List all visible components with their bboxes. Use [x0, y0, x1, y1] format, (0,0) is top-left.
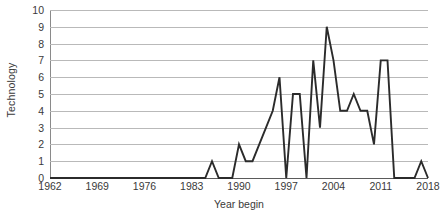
y-tick-label-6: 6: [38, 71, 44, 83]
y-tick-label-1: 1: [38, 155, 44, 167]
y-tick-label-10: 10: [32, 4, 44, 16]
y-tick-label-7: 7: [38, 54, 44, 66]
series-polyline: [50, 27, 428, 178]
y-tick-label-4: 4: [38, 105, 44, 117]
y-tick-label-5: 5: [38, 88, 44, 100]
y-tick-label-3: 3: [38, 122, 44, 134]
y-tick-label-8: 8: [38, 38, 44, 50]
x-tick-label-1976: 1976: [133, 180, 156, 192]
y-tick-label-2: 2: [38, 138, 44, 150]
series-line-technology: [50, 10, 428, 178]
x-tick-label-1990: 1990: [227, 180, 250, 192]
plot-area: [50, 10, 428, 178]
y-axis-title: Technology: [0, 0, 22, 180]
x-tick-label-1983: 1983: [180, 180, 203, 192]
x-axis-tick-labels: 196219691976198319901997200420112018: [50, 180, 428, 196]
x-tick-label-2018: 2018: [416, 180, 439, 192]
x-tick-label-2011: 2011: [369, 180, 392, 192]
x-tick-label-2004: 2004: [322, 180, 345, 192]
x-axis-title: Year begin: [50, 198, 428, 210]
x-tick-label-1997: 1997: [275, 180, 298, 192]
y-axis-title-text: Technology: [5, 62, 17, 117]
y-axis-tick-labels: 012345678910: [22, 10, 48, 178]
x-tick-label-1969: 1969: [86, 180, 109, 192]
y-tick-label-9: 9: [38, 21, 44, 33]
x-tick-label-1962: 1962: [38, 180, 61, 192]
